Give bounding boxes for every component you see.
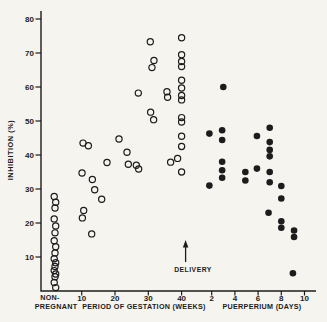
x-label-puerperium: PUERPERIUM (DAYS) <box>222 302 301 311</box>
data-point-filled <box>266 169 273 176</box>
data-point-open <box>85 143 91 149</box>
data-points <box>51 35 297 291</box>
y-tick-label: 10 <box>25 253 34 262</box>
data-point-open <box>125 161 131 167</box>
data-point-open <box>135 90 141 96</box>
data-point-filled <box>219 137 226 144</box>
data-point-filled <box>242 169 249 176</box>
data-point-open <box>148 109 154 115</box>
data-point-filled <box>291 227 298 234</box>
data-point-open <box>124 149 130 155</box>
data-point-open <box>99 196 105 202</box>
x-label-gestation: PERIOD OF GESTATION (WEEKS) <box>82 302 206 311</box>
data-point-filled <box>278 218 285 225</box>
data-point-filled <box>278 195 285 202</box>
data-point-filled <box>242 177 249 184</box>
delivery-label: DELIVERY <box>174 266 212 273</box>
data-point-open <box>92 187 98 193</box>
figure: 807060504030201010203040246810 INHIBITIO… <box>0 0 327 322</box>
data-point-open <box>104 159 110 165</box>
data-point-open <box>151 117 157 123</box>
data-point-open <box>53 244 59 250</box>
data-point-filled <box>266 153 273 160</box>
data-point-open <box>179 97 185 103</box>
data-point-open <box>149 65 155 71</box>
x-tick-label: 2 <box>209 294 214 303</box>
y-tick-label: 80 <box>25 15 34 24</box>
data-point-open <box>147 39 153 45</box>
data-point-open <box>89 231 95 237</box>
y-tick-label: 40 <box>25 151 34 160</box>
data-point-open <box>179 52 185 58</box>
x-label-nonpregnant-line2: PREGNANT <box>35 302 78 311</box>
x-label-nonpregnant-line1: NON- <box>40 293 60 302</box>
data-point-filled <box>219 159 226 166</box>
data-point-filled <box>254 165 261 172</box>
data-point-filled <box>266 147 273 154</box>
data-point-open <box>175 155 181 161</box>
y-axis-label: INHIBITION (%) <box>6 120 15 180</box>
y-tick-label: 20 <box>25 219 34 228</box>
data-point-filled <box>278 224 285 231</box>
y-tick-label: 50 <box>25 117 34 126</box>
delivery-arrow-head <box>183 240 189 248</box>
data-point-open <box>51 216 57 222</box>
data-point-open <box>179 169 185 175</box>
data-point-filled <box>265 210 272 217</box>
data-point-filled <box>206 130 213 137</box>
data-point-filled <box>266 139 273 146</box>
data-point-open <box>79 170 85 176</box>
data-point-open <box>81 207 87 213</box>
data-point-filled <box>266 125 273 132</box>
data-point-filled <box>266 179 273 186</box>
data-point-open <box>53 223 59 229</box>
data-point-filled <box>254 133 261 140</box>
data-point-open <box>116 136 122 142</box>
data-point-filled <box>219 167 226 174</box>
data-point-filled <box>220 84 227 91</box>
data-point-open <box>179 119 185 125</box>
data-point-open <box>89 176 95 182</box>
data-point-filled <box>219 174 226 181</box>
data-point-open <box>52 230 58 236</box>
y-tick-label: 30 <box>25 185 34 194</box>
data-point-open <box>79 215 85 221</box>
y-tick-label: 60 <box>25 83 34 92</box>
data-point-filled <box>290 270 297 277</box>
y-tick-label: 70 <box>25 49 34 58</box>
data-point-open <box>151 57 157 63</box>
data-point-open <box>179 85 185 91</box>
data-point-open <box>168 159 174 165</box>
data-point-open <box>179 143 185 149</box>
data-point-filled <box>278 183 285 190</box>
data-point-filled <box>219 127 226 134</box>
data-point-open <box>179 133 185 139</box>
delivery-annotation <box>183 240 189 262</box>
data-point-open <box>179 77 185 83</box>
data-point-filled <box>291 234 298 241</box>
data-point-open <box>179 35 185 41</box>
axis-ticks: 807060504030201010203040246810 <box>25 15 309 303</box>
scatter-plot: 807060504030201010203040246810 INHIBITIO… <box>0 0 327 322</box>
data-point-filled <box>206 182 213 189</box>
data-point-open <box>51 238 57 244</box>
